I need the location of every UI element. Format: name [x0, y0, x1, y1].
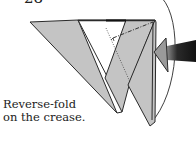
instruction-caption: Reverse-fold on the crease. — [3, 98, 85, 124]
lower-crease — [117, 112, 122, 113]
caption-line-2: on the crease. — [3, 111, 85, 124]
push-arrow-tail — [167, 40, 196, 62]
